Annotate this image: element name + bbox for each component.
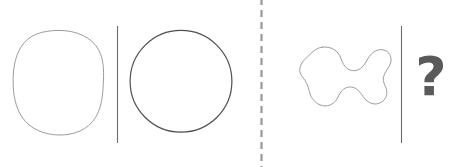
puzzle-figure [0, 0, 453, 167]
puzzle-canvas: ? [0, 0, 453, 167]
shape-a-handdrawn-rounded-circle [13, 30, 103, 135]
answer-question-mark: ? [412, 44, 450, 110]
example-pair-group [13, 26, 232, 143]
shape-b-circle [130, 30, 232, 132]
query-pair-group [300, 26, 402, 143]
shape-c-irregular-blob [300, 47, 391, 106]
